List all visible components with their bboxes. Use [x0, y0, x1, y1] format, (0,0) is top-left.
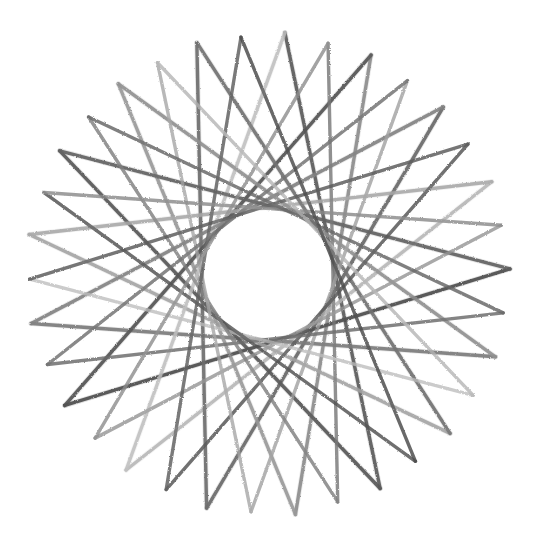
star-polygon-figure: [0, 0, 542, 547]
paper-background: [0, 0, 542, 547]
artwork-area: [0, 0, 542, 547]
page-canvas: [0, 0, 542, 547]
